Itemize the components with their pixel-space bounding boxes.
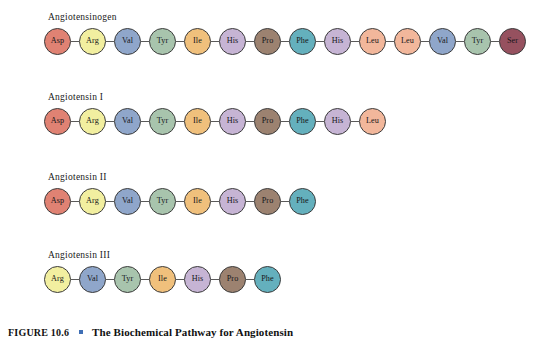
amino-acid-label: Arg	[86, 117, 99, 125]
peptide-chain: AspArgValTyrIleHisProPheHisLeuLeuValTyrS…	[44, 28, 526, 55]
peptide-bond	[246, 41, 254, 42]
amino-acid-label: Leu	[401, 37, 414, 45]
amino-acid-label: Val	[122, 37, 133, 45]
amino-acid-node: His	[219, 188, 246, 215]
amino-acid-label: Asp	[51, 197, 65, 205]
peptide-bond	[211, 201, 219, 202]
amino-acid-label: Arg	[86, 37, 99, 45]
peptide-bond	[71, 201, 79, 202]
amino-acid-label: Tyr	[472, 37, 484, 45]
peptide-bond	[351, 121, 359, 122]
amino-acid-label: Pro	[262, 117, 274, 125]
peptide-bond	[176, 41, 184, 42]
peptide-bond	[141, 201, 149, 202]
amino-acid-label: Ile	[158, 275, 167, 283]
peptide-bond	[106, 279, 114, 280]
amino-acid-label: His	[332, 117, 344, 125]
row-label: Angiotensinogen	[48, 12, 526, 22]
amino-acid-label: Val	[122, 117, 133, 125]
amino-acid-label: Pro	[262, 37, 274, 45]
amino-acid-label: His	[227, 37, 239, 45]
amino-acid-node: His	[184, 266, 211, 293]
peptide-bond	[316, 121, 324, 122]
amino-acid-node: Pro	[254, 28, 281, 55]
amino-acid-label: Tyr	[122, 275, 134, 283]
amino-acid-label: Val	[122, 197, 133, 205]
pathway-row-angiotensin-i: Angiotensin I AspArgValTyrIleHisProPheHi…	[44, 92, 386, 135]
figure-number: FIGURE 10.6	[8, 327, 69, 338]
peptide-bond	[491, 41, 499, 42]
amino-acid-node: Val	[114, 28, 141, 55]
amino-acid-node: Pro	[254, 108, 281, 135]
row-label: Angiotensin III	[48, 250, 281, 260]
angiotensin-pathway-figure: Angiotensinogen AspArgValTyrIleHisProPhe…	[0, 0, 549, 350]
amino-acid-node: Phe	[289, 28, 316, 55]
amino-acid-node: Phe	[289, 108, 316, 135]
peptide-bond	[106, 201, 114, 202]
peptide-bond	[176, 201, 184, 202]
amino-acid-label: Tyr	[157, 117, 169, 125]
amino-acid-label: His	[227, 197, 239, 205]
pathway-row-angiotensin-ii: Angiotensin II AspArgValTyrIleHisProPhe	[44, 172, 316, 215]
peptide-bond	[141, 121, 149, 122]
amino-acid-label: Arg	[51, 275, 64, 283]
peptide-bond	[351, 41, 359, 42]
amino-acid-label: Pro	[227, 275, 239, 283]
amino-acid-node: Val	[114, 108, 141, 135]
pathway-row-angiotensin-iii: Angiotensin III ArgValTyrIleHisProPhe	[44, 250, 281, 293]
peptide-bond	[281, 41, 289, 42]
figure-caption: FIGURE 10.6 The Biochemical Pathway for …	[8, 326, 293, 338]
amino-acid-node: Val	[79, 266, 106, 293]
amino-acid-node: His	[219, 28, 246, 55]
amino-acid-node: Arg	[79, 188, 106, 215]
peptide-bond	[71, 41, 79, 42]
amino-acid-node: Ile	[184, 28, 211, 55]
figure-title: The Biochemical Pathway for Angiotensin	[92, 326, 293, 338]
peptide-bond	[106, 41, 114, 42]
amino-acid-node: Tyr	[149, 28, 176, 55]
peptide-bond	[141, 41, 149, 42]
peptide-bond	[386, 41, 394, 42]
amino-acid-label: Pro	[262, 197, 274, 205]
amino-acid-node: Pro	[254, 188, 281, 215]
peptide-bond	[316, 41, 324, 42]
peptide-bond	[176, 121, 184, 122]
amino-acid-label: Phe	[261, 275, 274, 283]
amino-acid-node: Arg	[79, 108, 106, 135]
peptide-chain: AspArgValTyrIleHisProPheHisLeu	[44, 108, 386, 135]
amino-acid-label: His	[332, 37, 344, 45]
amino-acid-label: Leu	[366, 37, 379, 45]
amino-acid-node: Ser	[499, 28, 526, 55]
amino-acid-label: Phe	[296, 117, 309, 125]
peptide-bond	[281, 201, 289, 202]
amino-acid-node: Asp	[44, 108, 71, 135]
peptide-bond	[176, 279, 184, 280]
peptide-bond	[211, 279, 219, 280]
amino-acid-node: Tyr	[149, 188, 176, 215]
amino-acid-node: Val	[114, 188, 141, 215]
amino-acid-node: Leu	[359, 108, 386, 135]
amino-acid-label: Phe	[296, 197, 309, 205]
amino-acid-label: Phe	[296, 37, 309, 45]
amino-acid-node: Asp	[44, 188, 71, 215]
square-bullet-icon	[79, 330, 83, 334]
peptide-bond	[141, 279, 149, 280]
amino-acid-label: Ile	[193, 197, 202, 205]
amino-acid-label: Asp	[51, 37, 65, 45]
row-label: Angiotensin I	[48, 92, 386, 102]
peptide-bond	[106, 121, 114, 122]
peptide-bond	[211, 121, 219, 122]
peptide-bond	[71, 121, 79, 122]
peptide-bond	[246, 121, 254, 122]
amino-acid-label: Ser	[507, 37, 518, 45]
amino-acid-node: Tyr	[114, 266, 141, 293]
amino-acid-label: Val	[437, 37, 448, 45]
amino-acid-node: Phe	[254, 266, 281, 293]
amino-acid-node: Asp	[44, 28, 71, 55]
amino-acid-node: His	[219, 108, 246, 135]
amino-acid-node: Tyr	[464, 28, 491, 55]
amino-acid-node: Tyr	[149, 108, 176, 135]
amino-acid-node: Leu	[359, 28, 386, 55]
amino-acid-label: Arg	[86, 197, 99, 205]
peptide-bond	[246, 279, 254, 280]
